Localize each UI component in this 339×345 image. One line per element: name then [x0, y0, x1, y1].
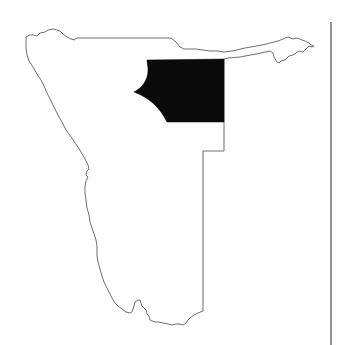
- map-canvas: [0, 0, 339, 345]
